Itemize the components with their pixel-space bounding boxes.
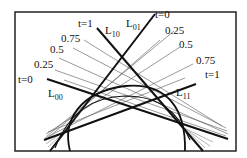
left-tick-025: 0.25 (34, 58, 54, 70)
label-L00: L00 (48, 87, 63, 102)
line-L00 (47, 79, 228, 139)
label-L10: L10 (105, 24, 120, 39)
left-tick-075: 0.75 (61, 32, 81, 44)
right-tick-05: 0.5 (179, 38, 193, 50)
right-tick-t1: t=1 (205, 68, 220, 80)
label-L01: L01 (126, 17, 141, 32)
diagram-canvas: L00 L10 L01 L11 t=0 0.25 0.5 0.75 t=1 t=… (0, 0, 247, 158)
left-tick-t1: t=1 (78, 17, 93, 29)
right-tick-075: 0.75 (196, 54, 216, 66)
right-tick-025: 0.25 (165, 24, 185, 36)
left-tick-t0: t=0 (18, 73, 33, 85)
left-tick-05: 0.5 (50, 43, 64, 55)
right-family-thin-lines (45, 31, 193, 138)
right-tick-t0: t=0 (155, 8, 170, 20)
